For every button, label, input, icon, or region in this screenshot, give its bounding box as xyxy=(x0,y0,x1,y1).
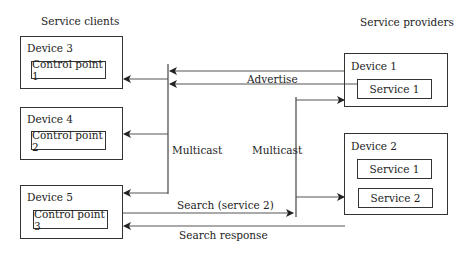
device-label: Device 5 xyxy=(27,192,73,203)
multicast-right-label: Multicast xyxy=(252,145,302,156)
device-5-box: Device 5 Control point 3 xyxy=(20,185,123,239)
device-4-box: Device 4 Control point 2 xyxy=(20,107,123,160)
service-2-box: Service 2 xyxy=(358,188,433,208)
device-2-box: Device 2 Service 1 Service 2 xyxy=(344,133,448,215)
device-label: Device 4 xyxy=(27,114,73,125)
advertise-label: Advertise xyxy=(247,74,298,85)
search-response-label: Search response xyxy=(179,230,268,241)
control-point-3: Control point 3 xyxy=(33,210,108,229)
control-point-1: Control point 1 xyxy=(31,61,106,79)
service-1-box: Service 1 xyxy=(357,159,432,179)
multicast-left-label: Multicast xyxy=(172,145,222,156)
service-providers-heading: Service providers xyxy=(360,17,454,28)
device-label: Device 2 xyxy=(351,141,397,152)
device-label: Device 3 xyxy=(27,43,73,54)
service-label: Service 2 xyxy=(371,192,421,204)
device-label: Device 1 xyxy=(351,61,397,72)
component-label: Control point 1 xyxy=(32,58,105,82)
service-clients-heading: Service clients xyxy=(41,16,119,27)
device-1-box: Device 1 Service 1 xyxy=(344,53,448,107)
service-label: Service 1 xyxy=(370,163,420,175)
control-point-2: Control point 2 xyxy=(31,131,106,150)
device-3-box: Device 3 Control point 1 xyxy=(20,36,123,89)
component-label: Control point 2 xyxy=(32,129,105,153)
service-1-box: Service 1 xyxy=(357,79,432,99)
search-label: Search (service 2) xyxy=(177,200,274,211)
component-label: Control point 3 xyxy=(34,208,107,232)
service-label: Service 1 xyxy=(370,83,420,95)
